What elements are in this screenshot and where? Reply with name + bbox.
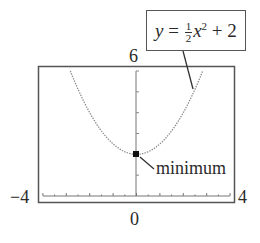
eq-equals: = <box>168 20 179 41</box>
equation-label-box: y = 12x2 + 2 <box>146 10 246 51</box>
minimum-point-marker <box>133 151 139 157</box>
minimum-leader-line <box>140 157 154 169</box>
eq-y: y <box>155 20 163 41</box>
equation-leader-line <box>183 51 193 89</box>
eq-fraction: 12 <box>185 21 193 44</box>
eq-denominator: 2 <box>185 33 193 44</box>
eq-constant: + 2 <box>212 20 237 41</box>
ymax-label: 6 <box>129 47 138 65</box>
eq-exponent: 2 <box>202 20 208 32</box>
xmax-label: 4 <box>238 188 247 206</box>
xmin-label: −4 <box>10 188 29 206</box>
eq-x: x <box>193 20 201 41</box>
equation-label: y = 12x2 + 2 <box>155 20 237 44</box>
ymin-label: 0 <box>130 210 139 228</box>
minimum-label: minimum <box>156 159 226 177</box>
